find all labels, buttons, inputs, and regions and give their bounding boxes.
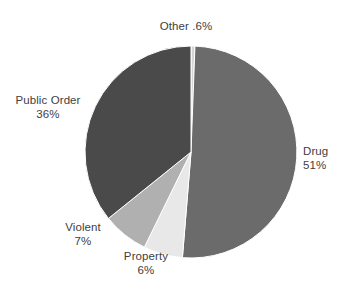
slice-label-property-name: Property (112, 249, 180, 263)
pie-chart-canvas (0, 0, 348, 290)
pie-slice-drug (182, 46, 297, 258)
slice-label-other: Other .6% (134, 19, 238, 33)
slice-label-other-value: .6% (192, 20, 212, 32)
pie-chart-figure: Other .6% Drug 51% Public Order 36% Viol… (0, 0, 348, 290)
slice-label-drug-value: 51% (303, 158, 328, 172)
slice-label-property: Property 6% (112, 249, 180, 277)
slice-label-public-order-value: 36% (6, 107, 90, 121)
slice-label-drug-name: Drug (303, 144, 328, 158)
slice-label-violent: Violent 7% (55, 220, 111, 248)
slice-label-public-order: Public Order 36% (6, 93, 90, 121)
slice-label-public-order-name: Public Order (6, 93, 90, 107)
slice-label-drug: Drug 51% (303, 144, 328, 172)
slice-label-violent-name: Violent (55, 220, 111, 234)
pie-slice-group (85, 46, 297, 258)
slice-label-property-value: 6% (112, 263, 180, 277)
slice-label-violent-value: 7% (55, 234, 111, 248)
slice-label-other-name: Other (160, 20, 189, 32)
